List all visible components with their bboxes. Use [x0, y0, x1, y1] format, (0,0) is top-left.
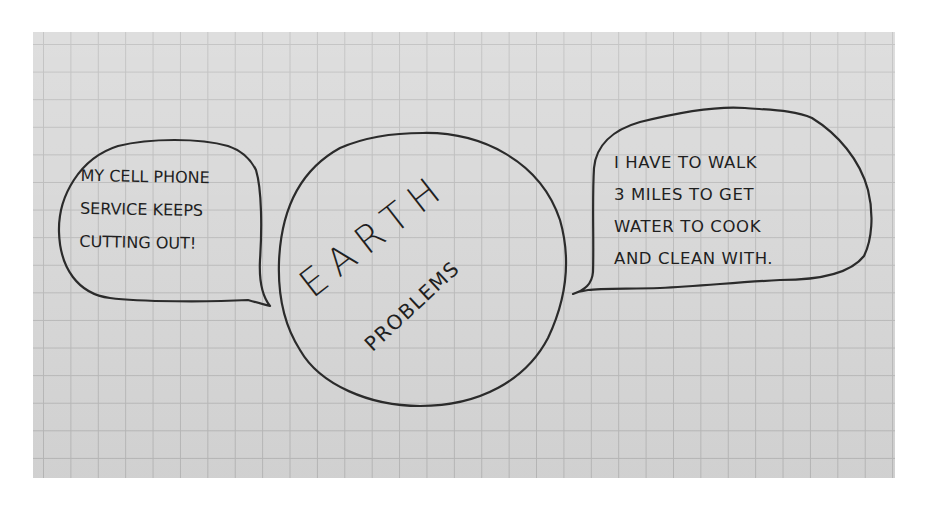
left-bubble-line: MY CELL PHONE: [80, 159, 210, 194]
right-bubble-line: 3 MILES TO GET: [614, 179, 773, 211]
right-bubble-text: I HAVE TO WALK 3 MILES TO GET WATER TO C…: [614, 147, 773, 275]
left-bubble-line: CUTTING OUT!: [79, 225, 209, 260]
left-bubble-line: SERVICE KEEPS: [80, 192, 210, 227]
right-bubble-line: AND CLEAN WITH.: [614, 243, 773, 275]
left-bubble-text: MY CELL PHONE SERVICE KEEPS CUTTING OUT!: [79, 159, 210, 260]
right-bubble-line: I HAVE TO WALK: [614, 147, 773, 179]
right-bubble-line: WATER TO COOK: [614, 211, 773, 243]
